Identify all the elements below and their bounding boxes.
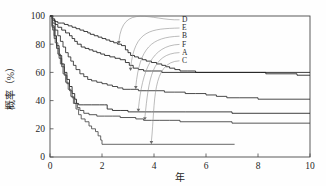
x-tick-label: 10	[305, 161, 315, 171]
y-axis-title: 概率（%）	[4, 62, 16, 110]
x-tick-label: 2	[100, 161, 105, 171]
curve-F	[50, 16, 310, 113]
y-tick-label: 40	[36, 96, 46, 106]
leader-line-C	[151, 61, 179, 142]
leader-arrow-F	[137, 109, 141, 112]
x-axis-tick-labels: 0246810	[48, 161, 315, 171]
leader-arrow-E	[129, 68, 133, 71]
x-tick-label: 0	[48, 161, 53, 171]
leader-arrow-B	[134, 86, 138, 89]
x-tick-label: 4	[152, 161, 157, 171]
legend: DEBFAC	[182, 15, 188, 65]
y-tick-label: 100	[31, 11, 46, 21]
chart-figure: 0246810 020406080100 DEBFAC 年 概率（%）	[0, 0, 326, 186]
y-tick-label: 80	[36, 40, 46, 50]
leader-line-F	[138, 44, 179, 108]
y-tick-label: 20	[36, 124, 46, 134]
leader-line-D	[119, 16, 180, 41]
curve-D	[50, 16, 310, 75]
x-tick-label: 8	[256, 161, 261, 171]
x-tick-label: 6	[204, 161, 209, 171]
data-curves	[50, 16, 310, 144]
curve-C	[50, 16, 235, 144]
x-axis-ticks	[50, 154, 310, 158]
y-tick-label: 60	[36, 68, 46, 78]
legend-leader-lines	[117, 16, 179, 144]
curve-E	[50, 16, 310, 72]
leader-arrow-C	[150, 141, 154, 144]
legend-label-C: C	[182, 56, 187, 65]
y-tick-label: 0	[40, 152, 45, 162]
leader-line-B	[136, 36, 180, 86]
plot-frame	[50, 16, 310, 157]
x-axis-title: 年	[175, 171, 185, 183]
survival-curve-chart: 0246810 020406080100 DEBFAC 年 概率（%）	[0, 0, 326, 186]
y-axis-tick-labels: 020406080100	[31, 11, 46, 162]
curve-B	[50, 16, 310, 99]
y-axis-ticks	[50, 16, 54, 157]
